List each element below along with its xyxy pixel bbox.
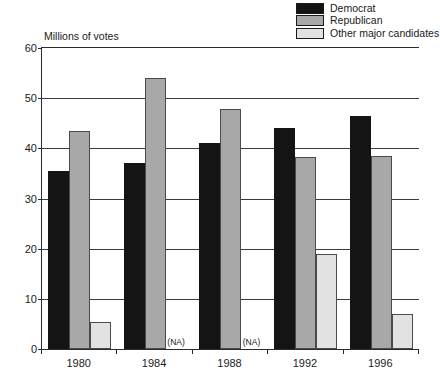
legend-swatch-icon [296, 28, 324, 39]
legend-swatch-icon [296, 3, 324, 14]
chart-legend: DemocratRepublicanOther major candidates [296, 2, 438, 40]
bar-democrat-1996 [350, 116, 371, 349]
bar-democrat-1980 [48, 171, 69, 349]
x-tick-label: 1984 [142, 357, 166, 369]
y-tick-label: 20 [25, 243, 37, 254]
x-axis: 19801984198819921996 [41, 349, 420, 379]
bar-other-1996 [392, 314, 413, 349]
bar-democrat-1984 [124, 163, 145, 349]
x-tick-mark [192, 349, 193, 354]
legend-item: Democrat [296, 2, 438, 15]
legend-swatch-icon [296, 15, 324, 26]
legend-label: Democrat [330, 3, 376, 14]
plot-area: 0102030405060 (NA)(NA) [41, 47, 419, 350]
y-tick-label: 60 [25, 43, 37, 54]
y-tick-label: 40 [25, 143, 37, 154]
bar-other-1992 [316, 254, 337, 349]
bar-other-1980 [90, 322, 111, 349]
x-tick-mark [41, 349, 42, 354]
na-annotation: (NA) [162, 338, 191, 347]
legend-item: Republican [296, 15, 438, 28]
na-annotation: (NA) [237, 338, 266, 347]
bars-layer: (NA)(NA) [42, 48, 419, 349]
x-tick-mark [418, 349, 419, 354]
x-tick-mark [116, 349, 117, 354]
bar-democrat-1988 [199, 143, 220, 349]
x-tick-mark [343, 349, 344, 354]
bar-republican-1988 [220, 109, 241, 349]
x-tick-mark [267, 349, 268, 354]
y-tick-label: 30 [25, 193, 37, 204]
bar-republican-1984 [145, 78, 166, 349]
legend-label: Other major candidates [330, 28, 439, 39]
x-tick-label: 1988 [217, 357, 241, 369]
bar-democrat-1992 [274, 128, 295, 349]
legend-label: Republican [330, 15, 383, 26]
bar-republican-1996 [371, 156, 392, 349]
y-axis-title: Millions of votes [44, 31, 119, 42]
legend-item: Other major candidates [296, 27, 438, 40]
y-tick-label: 10 [25, 293, 37, 304]
x-tick-label: 1992 [293, 357, 317, 369]
votes-bar-chart: DemocratRepublicanOther major candidates… [0, 0, 440, 384]
bar-republican-1980 [69, 131, 90, 349]
x-tick-label: 1980 [66, 357, 90, 369]
bar-republican-1992 [295, 157, 316, 349]
y-tick-label: 50 [25, 93, 37, 104]
x-tick-label: 1996 [368, 357, 392, 369]
y-tick-label: 0 [31, 344, 37, 355]
